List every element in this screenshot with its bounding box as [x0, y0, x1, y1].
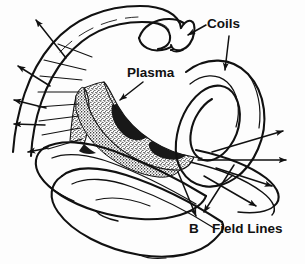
plasma-region: [70, 82, 202, 177]
fusion-device-diagram: Coils Plasma B Field Lines: [0, 0, 305, 264]
label-leaders: [120, 25, 234, 216]
coil-bottom: [52, 168, 224, 258]
label-plasma: Plasma: [127, 66, 174, 80]
label-coils: Coils: [207, 17, 240, 31]
label-field-lines: Field Lines: [212, 222, 283, 236]
label-b-symbol: B: [189, 222, 199, 236]
